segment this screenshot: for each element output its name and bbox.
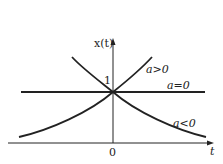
origin-tick-label: 0 xyxy=(109,147,116,158)
x-axis-label: t xyxy=(210,146,214,157)
y-axis-label: x(t) xyxy=(94,38,113,49)
annotation-a-positive: a>0 xyxy=(146,64,169,75)
annotation-a-negative: a<0 xyxy=(173,118,196,129)
y-tick-one: 1 xyxy=(104,75,111,86)
exponential-signal-plot: x(t) t 0 1 a>0 a=0 a<0 xyxy=(0,0,223,164)
annotation-a-zero: a=0 xyxy=(167,80,190,91)
